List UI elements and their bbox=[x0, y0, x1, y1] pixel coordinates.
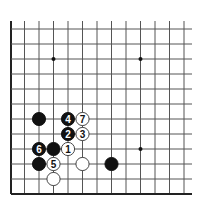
move-number: 1 bbox=[65, 144, 71, 155]
white-stone: 7 bbox=[76, 112, 89, 125]
white-stone: 3 bbox=[76, 127, 89, 140]
move-number: 4 bbox=[65, 114, 71, 125]
star-point-icon bbox=[52, 57, 56, 61]
move-number: 7 bbox=[80, 114, 86, 125]
move-number: 5 bbox=[51, 159, 57, 170]
star-point-icon bbox=[139, 57, 143, 61]
white-stone bbox=[76, 157, 89, 170]
move-number: 6 bbox=[36, 144, 42, 155]
black-stone bbox=[32, 157, 45, 170]
white-stone: 5 bbox=[47, 157, 60, 170]
white-stone bbox=[47, 172, 60, 185]
black-stone: 2 bbox=[61, 127, 74, 140]
go-board: 4723615 bbox=[0, 0, 204, 207]
black-stone bbox=[105, 157, 118, 170]
black-stone: 4 bbox=[61, 112, 74, 125]
star-point-icon bbox=[139, 147, 143, 151]
move-number: 2 bbox=[65, 129, 71, 140]
white-stone: 1 bbox=[61, 142, 74, 155]
move-number: 3 bbox=[80, 129, 86, 140]
black-stone: 6 bbox=[32, 142, 45, 155]
black-stone bbox=[32, 112, 45, 125]
black-stone bbox=[47, 142, 60, 155]
